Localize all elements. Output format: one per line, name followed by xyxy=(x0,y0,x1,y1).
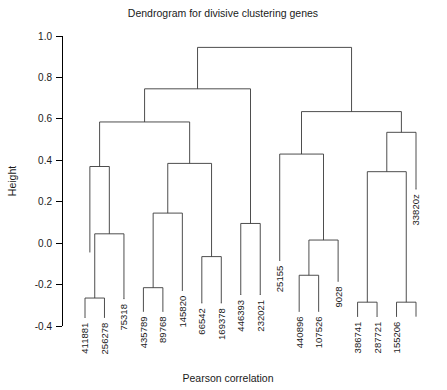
dendrogram-link xyxy=(387,132,416,189)
dendrogram-link xyxy=(299,275,318,311)
y-tick-label: 0.0 xyxy=(38,238,52,249)
leaf-label: 446393 xyxy=(235,300,246,332)
dendrogram-link xyxy=(358,302,377,317)
leaf-label: 440896 xyxy=(294,317,305,349)
dendrogram-link xyxy=(90,167,109,253)
leaf-label: 155206 xyxy=(391,322,402,354)
y-tick-label: -0.2 xyxy=(35,279,53,290)
dendrogram-link xyxy=(198,47,352,111)
leaf-label: 9028 xyxy=(333,286,344,307)
leaf-label: 107526 xyxy=(313,317,324,349)
y-tick-label: -0.4 xyxy=(35,321,53,332)
leaf-label: 287721 xyxy=(372,322,383,354)
dendrogram-link xyxy=(95,234,124,299)
leaf-label: 435789 xyxy=(138,317,149,349)
leaf-label: 25155 xyxy=(274,266,285,292)
dendrogram-link xyxy=(202,257,221,304)
leaf-label: 66542 xyxy=(196,308,207,334)
dendrogram-canvas: Dendrogram for divisive clustering genes… xyxy=(0,0,447,390)
dendrogram-link xyxy=(280,154,324,261)
y-tick-label: 0.4 xyxy=(38,155,52,166)
y-tick-label: 0.2 xyxy=(38,196,52,207)
dendrogram-link xyxy=(143,288,162,312)
dendrogram-link xyxy=(168,163,212,256)
leaf-label: 169378 xyxy=(216,308,227,340)
y-axis: 1.00.80.60.40.20.0-0.2-0.4 xyxy=(35,31,62,332)
leaf-label: 145820 xyxy=(177,296,188,328)
y-tick-label: 0.6 xyxy=(38,113,52,124)
leaf-label: 89768 xyxy=(157,317,168,343)
leaf-label: 232021 xyxy=(255,300,266,332)
leaf-label: 33820z xyxy=(411,194,422,225)
dendrogram-link xyxy=(241,223,260,294)
dendrogram-link xyxy=(100,122,190,167)
dendrogram-link xyxy=(153,213,182,291)
y-tick-label: 1.0 xyxy=(38,31,52,42)
x-axis-title: Pearson correlation xyxy=(182,372,273,384)
leaf-label: 256278 xyxy=(99,323,110,355)
dendrogram-link xyxy=(85,298,104,318)
page-title: Dendrogram for divisive clustering genes xyxy=(128,7,318,19)
y-axis-title: Height xyxy=(6,166,18,196)
dendrogram-link xyxy=(145,89,251,224)
dendrogram-link xyxy=(367,172,406,302)
y-axis-ticks: 1.00.80.60.40.20.0-0.2-0.4 xyxy=(35,31,62,332)
dendrogram-link xyxy=(397,302,416,317)
dendrogram-plot: Dendrogram for divisive clustering genes… xyxy=(0,0,447,390)
y-tick-label: 0.8 xyxy=(38,72,52,83)
leaf-label: 411881 xyxy=(80,323,91,354)
leaf-label: 75318 xyxy=(118,304,129,330)
dendrogram-links xyxy=(85,47,416,317)
leaf-label: 386741 xyxy=(352,322,363,354)
